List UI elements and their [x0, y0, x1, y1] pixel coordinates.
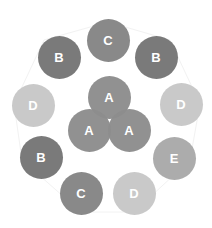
node-b-upper-left: B [38, 36, 81, 79]
node-c-top: C [87, 19, 130, 62]
node-label: A [124, 123, 133, 138]
node-a-center-left: A [68, 109, 111, 152]
node-d-right: D [160, 83, 203, 126]
circle-diagram: C B B D D B E C D A A A [0, 0, 212, 228]
node-e-lower-right: E [153, 137, 196, 180]
node-a-center-right: A [108, 109, 151, 152]
node-label: C [76, 186, 85, 201]
node-label: E [170, 151, 179, 166]
node-label: D [129, 186, 138, 201]
node-label: C [103, 33, 112, 48]
node-label: B [54, 50, 63, 65]
node-d-left: D [12, 84, 55, 127]
node-label: D [176, 97, 185, 112]
node-c-bottom: C [60, 172, 103, 215]
node-b-lower-left: B [20, 136, 63, 179]
node-label: A [84, 123, 93, 138]
node-b-upper-right: B [135, 36, 178, 79]
node-label: B [151, 50, 160, 65]
node-label: B [36, 150, 45, 165]
node-label: A [104, 90, 113, 105]
node-label: D [28, 98, 37, 113]
node-d-bottom: D [113, 172, 156, 215]
